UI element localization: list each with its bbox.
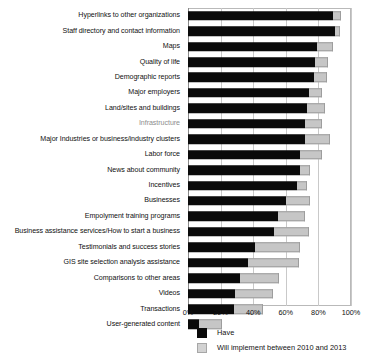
bar-row: Land/sites and buildings (0, 101, 365, 116)
legend-label: Will implement between 2010 and 2013 (217, 343, 346, 352)
bar-segment-will-implement (305, 134, 329, 144)
bar-segment-will-implement (317, 42, 333, 52)
stacked-bar (188, 88, 322, 98)
bar-segment-have (188, 104, 307, 114)
bar-segment-will-implement (235, 289, 272, 299)
bar-row: Labor force (0, 147, 365, 162)
bar-segment-have (188, 42, 317, 52)
stacked-bar (188, 11, 341, 21)
bar-row: Major employers (0, 85, 365, 100)
x-axis-tick-label: 100% (342, 308, 361, 317)
bar-segment-have (188, 258, 248, 268)
bar-row: Hyperlinks to other organizations (0, 8, 365, 23)
bar-segment-will-implement (333, 11, 341, 21)
bar-row: Empolyment training programs (0, 209, 365, 224)
bar-segment-will-implement (300, 150, 321, 160)
x-axis: 0%20%40%60%80%100% (0, 308, 365, 322)
category-label: Videos (0, 289, 184, 298)
bar-segment-will-implement (314, 73, 327, 83)
bar-row: Quality of life (0, 54, 365, 69)
bar-segment-have (188, 273, 240, 283)
bar-segment-will-implement (315, 57, 328, 67)
bar-segment-have (188, 243, 255, 253)
bar-segment-will-implement (255, 243, 301, 253)
stacked-bar (188, 57, 328, 67)
stacked-bar (188, 73, 327, 83)
stacked-bar (188, 243, 300, 253)
category-label: Major employers (0, 88, 184, 97)
bar-segment-have (188, 150, 300, 160)
category-label: Land/sites and buildings (0, 104, 184, 113)
bar-segment-have (188, 88, 309, 98)
bar-segment-have (188, 196, 286, 206)
bar-segment-have (188, 11, 333, 21)
legend-swatch-will (197, 343, 207, 353)
stacked-bar (188, 104, 325, 114)
legend-item: Will implement between 2010 and 2013 (197, 340, 346, 355)
category-label: News about community (0, 166, 184, 175)
category-label: Empolyment training programs (0, 212, 184, 221)
bar-row: Demographic reports (0, 70, 365, 85)
bar-segment-have (188, 212, 278, 222)
bar-row: Testimonials and success stories (0, 240, 365, 255)
stacked-bar (188, 150, 322, 160)
stacked-bar (188, 196, 310, 206)
stacked-bar (188, 258, 299, 268)
bar-row: Videos (0, 286, 365, 301)
bar-segment-will-implement (307, 104, 325, 114)
bar-segment-will-implement (274, 227, 308, 237)
bar-row: Infrastructure (0, 116, 365, 131)
category-label: Testimonials and success stories (0, 243, 184, 252)
x-axis-tick-label: 20% (213, 308, 228, 317)
stacked-bar (188, 227, 309, 237)
bar-segment-have (188, 57, 315, 67)
x-axis-tick-label: 0% (183, 308, 194, 317)
bar-segment-will-implement (278, 212, 306, 222)
x-axis-tick-label: 40% (246, 308, 261, 317)
legend-swatch-have (197, 328, 207, 338)
stacked-bar (188, 134, 330, 144)
bar-row: News about community (0, 162, 365, 177)
bar-row: GIS site selection analysis assistance (0, 255, 365, 270)
category-label: Infrastructure (0, 119, 184, 128)
bar-segment-have (188, 73, 314, 83)
category-label: Maps (0, 42, 184, 51)
bar-segment-have (188, 119, 305, 129)
category-label: Demographic reports (0, 73, 184, 82)
bar-row: Maps (0, 39, 365, 54)
bar-segment-will-implement (300, 165, 310, 175)
bar-row: Major Industries or business/industry cl… (0, 132, 365, 147)
bar-segment-have (188, 134, 305, 144)
category-label: Labor force (0, 150, 184, 159)
bar-segment-will-implement (309, 88, 322, 98)
bar-segment-have (188, 227, 274, 237)
stacked-bar (188, 119, 322, 129)
bar-segment-have (188, 26, 335, 36)
bar-row: Incentives (0, 178, 365, 193)
stacked-bar (188, 273, 279, 283)
category-label: Major Industries or business/industry cl… (0, 135, 184, 144)
bar-segment-have (188, 289, 235, 299)
legend-item: Have (197, 325, 346, 340)
category-label: Quality of life (0, 58, 184, 67)
category-label: Staff directory and contact information (0, 27, 184, 36)
bar-segment-will-implement (335, 26, 340, 36)
stacked-bar (188, 42, 333, 52)
category-label: Businesses (0, 196, 184, 205)
stacked-bar (188, 165, 310, 175)
bar-row: Staff directory and contact information (0, 23, 365, 38)
bar-segment-will-implement (305, 119, 321, 129)
horizontal-bar-chart: Hyperlinks to other organizationsStaff d… (0, 0, 365, 362)
stacked-bar (188, 289, 273, 299)
category-label: Business assistance services/How to star… (0, 227, 184, 236)
bar-segment-will-implement (240, 273, 279, 283)
x-axis-tick-label: 80% (311, 308, 326, 317)
category-label: GIS site selection analysis assistance (0, 258, 184, 267)
stacked-bar (188, 181, 307, 191)
bar-segment-will-implement (248, 258, 299, 268)
bar-segment-will-implement (286, 196, 310, 206)
bar-row: Businesses (0, 193, 365, 208)
bar-row: Business assistance services/How to star… (0, 224, 365, 239)
category-label: Incentives (0, 181, 184, 190)
category-label: Hyperlinks to other organizations (0, 11, 184, 20)
